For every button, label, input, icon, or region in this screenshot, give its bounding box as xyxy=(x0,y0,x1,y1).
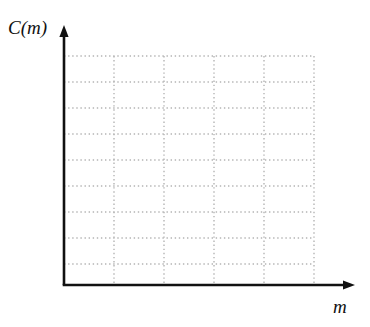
arrow-right-icon xyxy=(343,280,355,289)
horizontal-gridlines xyxy=(64,56,314,264)
axis-arrowheads xyxy=(59,25,355,290)
plot-canvas xyxy=(0,0,370,327)
vertical-gridlines xyxy=(114,56,314,285)
arrow-up-icon xyxy=(59,25,68,37)
coordinate-plot: C(m) m xyxy=(0,0,370,327)
